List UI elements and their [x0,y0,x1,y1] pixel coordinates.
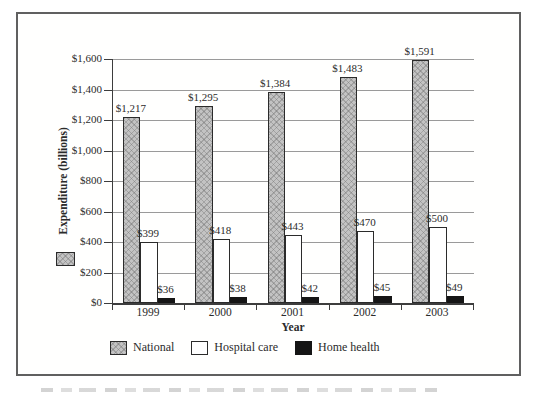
value-label-home-2001: $42 [278,282,342,295]
y-tick-label-8: $1,600 [40,51,102,66]
legend: National Hospital care Home health [110,340,380,355]
y-tick-label-1: $200 [40,265,102,280]
legend-item-home-health: Home health [295,340,380,355]
value-label-home-2002: $45 [350,281,414,294]
bar-national-2003 [412,60,429,303]
category-label-2001: 2001 [263,306,323,318]
legend-label-home-health: Home health [318,340,380,355]
value-label-national-2003: $1,591 [388,45,452,58]
category-label-2002: 2002 [335,306,395,318]
bar-home-2002 [374,296,391,303]
value-label-home-1999: $36 [133,283,197,296]
x-tick-2 [256,305,257,310]
value-label-national-2000: $1,295 [171,91,235,104]
y-tick-7 [104,90,112,91]
y-tick-3 [104,212,112,213]
value-label-hospital-1999: $399 [116,227,180,240]
y-tick-2 [104,242,112,243]
y-tick-label-3: $600 [40,204,102,219]
bar-home-2001 [302,297,319,303]
y-tick-label-6: $1,200 [40,112,102,127]
y-tick-1 [104,273,112,274]
legend-item-national: National [110,340,174,355]
bar-national-2000 [195,106,212,303]
x-tick-3 [329,305,330,310]
bar-home-2000 [230,297,247,303]
x-tick-0 [112,305,113,310]
y-tick-0 [104,303,112,304]
value-label-national-1999: $1,217 [99,102,163,115]
category-label-2000: 2000 [190,306,250,318]
cropped-caption-remnant [41,388,443,392]
legend-label-national: National [133,340,174,355]
value-label-national-2001: $1,384 [243,77,307,90]
y-tick-label-7: $1,400 [40,82,102,97]
home-health-swatch-icon [295,341,312,355]
bar-national-1999 [123,117,140,303]
y-tick-8 [104,59,112,60]
value-label-hospital-2003: $500 [405,212,469,225]
y-tick-label-2: $400 [40,234,102,249]
y-tick-label-0: $0 [40,295,102,310]
y-tick-5 [104,151,112,152]
hospital-care-swatch-icon [191,341,208,355]
bar-national-2002 [340,77,357,303]
legend-label-hospital-care: Hospital care [214,340,278,355]
value-label-home-2003: $49 [422,281,486,294]
page: Expenditure (billions) $0$200$400$600$80… [0,0,536,394]
value-label-national-2002: $1,483 [315,62,379,75]
y-tick-label-4: $800 [40,173,102,188]
y-tick-4 [104,181,112,182]
bar-home-2003 [447,296,464,303]
x-tick-5 [473,305,474,310]
national-swatch-icon [110,341,127,355]
y-tick-6 [104,120,112,121]
value-label-hospital-2000: $418 [188,224,252,237]
category-label-2003: 2003 [407,306,467,318]
category-label-1999: 1999 [118,306,178,318]
plot-area [112,59,474,305]
value-label-home-2000: $38 [206,282,270,295]
y-tick-label-5: $1,000 [40,143,102,158]
value-label-hospital-2001: $443 [261,220,325,233]
bar-home-1999 [158,298,175,303]
legend-item-hospital-care: Hospital care [191,340,278,355]
x-tick-4 [401,305,402,310]
x-tick-1 [184,305,185,310]
x-axis-title: Year [260,321,326,333]
value-label-hospital-2002: $470 [333,216,397,229]
bar-national-2001 [268,92,285,303]
